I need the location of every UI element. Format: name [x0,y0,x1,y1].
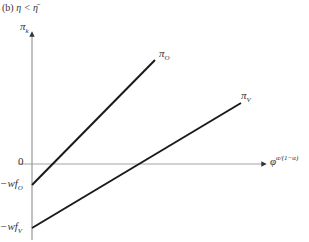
intercept-o-label: −wfO [0,177,23,192]
origin-label: 0 [18,155,24,167]
line-o-label: πO [159,47,170,62]
diagram-canvas [0,0,309,242]
x-axis-label: φα/(1−α) [270,154,298,167]
line-v-label: πV [241,89,251,104]
y-axis-label: πk [20,20,29,35]
intercept-v-label: −wfV [0,220,22,235]
line-pi-v [32,103,241,228]
